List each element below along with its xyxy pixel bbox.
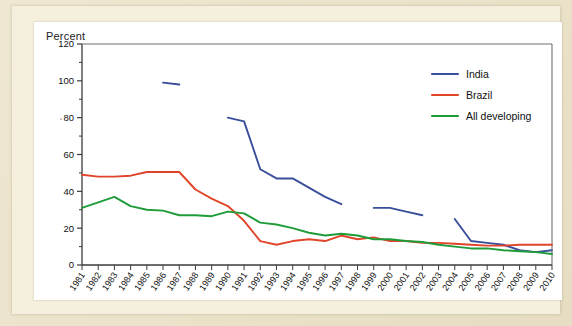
x-tick-label: 2001 <box>392 270 412 292</box>
x-tick-label: 2008 <box>505 270 525 292</box>
page-mount-border: Percent 020406080100120 1981198219831984… <box>12 6 560 314</box>
legend-label-india: India <box>466 68 489 80</box>
scanned-page: Percent 020406080100120 1981198219831984… <box>0 0 572 326</box>
x-tick-label: 2000 <box>375 270 395 292</box>
x-tick-label: 2010 <box>537 270 557 292</box>
x-tick-label: 1996 <box>311 270 331 292</box>
x-tick-label: 1984 <box>116 270 136 292</box>
x-tick-label: 1983 <box>100 270 120 292</box>
y-tick-label: 40 <box>63 186 74 197</box>
y-tick-label: 100 <box>58 75 74 86</box>
x-tick-label: 1985 <box>132 270 152 292</box>
y-tick-label: 80 <box>63 112 74 123</box>
x-tick-label: 1988 <box>181 270 201 292</box>
x-tick-label: 1990 <box>213 270 233 292</box>
x-tick-label: 1995 <box>294 270 314 292</box>
x-tick-label: 2007 <box>489 270 509 292</box>
y-tick-label: 20 <box>63 223 74 234</box>
x-tick-label: 1989 <box>197 270 217 292</box>
chart-figure: Percent 020406080100120 1981198219831984… <box>34 22 562 300</box>
series-line-india <box>163 83 179 85</box>
x-tick-label: 1992 <box>246 270 266 292</box>
series-line-india <box>455 219 552 252</box>
x-tick-label: 1991 <box>230 270 250 292</box>
x-tick-label: 1987 <box>165 270 185 292</box>
legend-label-all-developing: All developing <box>466 110 532 122</box>
x-tick-label: 1997 <box>327 270 347 292</box>
x-tick-label: 2003 <box>424 270 444 292</box>
x-tick-label: 2009 <box>521 270 541 292</box>
x-tick-label: 2004 <box>440 270 460 292</box>
x-tick-label: 2002 <box>408 270 428 292</box>
x-tick-label: 1994 <box>278 270 298 292</box>
x-tick-label: 2005 <box>456 270 476 292</box>
y-tick-label: 0 <box>69 259 74 270</box>
y-tick-label: 60 <box>63 149 74 160</box>
x-tick-label: 1982 <box>84 270 104 292</box>
x-tick-label: 1993 <box>262 270 282 292</box>
x-tick-label: 1999 <box>359 270 379 292</box>
x-tick-label: 1986 <box>148 270 168 292</box>
y-tick-label: 120 <box>58 38 74 49</box>
x-tick-label: 1981 <box>67 270 87 292</box>
series-line-india <box>374 208 423 215</box>
x-ticks-group <box>82 265 552 270</box>
figure-paper: Percent 020406080100120 1981198219831984… <box>34 22 562 300</box>
x-tick-label: 1998 <box>343 270 363 292</box>
x-tick-label: 2006 <box>473 270 493 292</box>
legend-group: IndiaBrazilAll developing <box>432 68 532 122</box>
legend-label-brazil: Brazil <box>466 89 492 101</box>
series-line-india <box>228 118 341 205</box>
plot-svg: 020406080100120 198119821983198419851986… <box>34 22 562 300</box>
series-lines-group <box>82 83 552 254</box>
y-ticks-group: 020406080100120 <box>58 38 82 270</box>
x-tick-labels-group: 1981198219831984198519861987198819891990… <box>67 270 557 292</box>
